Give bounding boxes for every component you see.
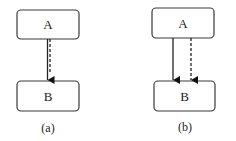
caption-b: (b) [178,120,192,134]
panel-b: A B (b) [152,8,215,134]
caption-a: (a) [41,121,54,135]
diagram-canvas: A B (a) A B (b) [0,0,236,141]
node-b-A-label: A [178,16,188,31]
node-b-B-label: B [180,89,189,104]
node-a-A-label: A [43,17,53,32]
node-a-B-label: B [44,89,53,104]
panel-a: A B (a) [17,10,79,135]
